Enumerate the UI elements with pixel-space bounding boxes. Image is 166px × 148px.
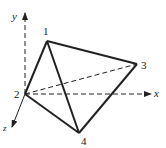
x-axis-label: x: [153, 87, 159, 99]
edge-3-4: [79, 64, 137, 133]
diagram-canvas: y x z 1 2 3 4: [0, 0, 166, 148]
z-axis-label: z: [2, 123, 7, 133]
node-4-label: 4: [81, 135, 87, 147]
edge-2-4: [25, 94, 79, 133]
node-3-label: 3: [141, 59, 147, 71]
edge-2-3-hidden: [25, 64, 137, 94]
edge-1-2: [25, 41, 47, 94]
edge-1-3: [47, 41, 137, 64]
node-2-label: 2: [14, 88, 20, 100]
y-axis-label: y: [11, 10, 17, 22]
tetrahedron-diagram: y x z 1 2 3 4: [0, 0, 166, 148]
node-1-label: 1: [43, 25, 49, 37]
